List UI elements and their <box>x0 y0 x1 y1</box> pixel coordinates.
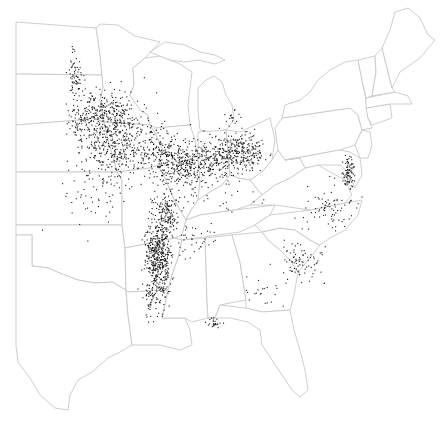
state-north-dakota <box>16 22 102 75</box>
state-michigan-lower <box>198 76 234 132</box>
dot-cluster-south-alabama <box>205 317 224 328</box>
state-maine <box>382 8 435 88</box>
us-eastern-dot-density-map <box>0 0 446 423</box>
state-kansas <box>16 172 122 225</box>
state-florida <box>208 305 308 397</box>
state-boundaries-layer <box>16 8 435 410</box>
